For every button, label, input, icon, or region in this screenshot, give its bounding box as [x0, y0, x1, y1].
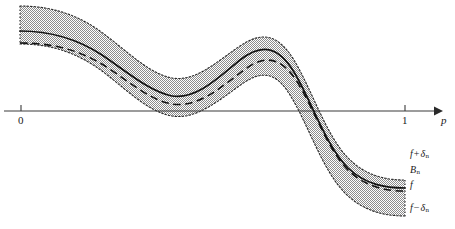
curve-label-lower-bound: f−δn: [410, 203, 429, 214]
figure-canvas: 0 1 p f+δn Bn f f−δn: [0, 0, 455, 229]
tolerance-band: [0, 0, 455, 229]
axis-tick-label-one: 1: [402, 115, 408, 126]
curve-label-bernstein: Bn: [410, 165, 420, 176]
curve-label-function: f: [410, 180, 413, 190]
curve-label-upper-bound: f+δn: [410, 149, 429, 160]
bernstein-approximation-curve: [20, 43, 405, 191]
lower-bound-subscript: n: [425, 206, 429, 214]
axis-name-label-p: p: [441, 115, 447, 126]
axis-group: [4, 105, 443, 115]
upper-bound-subscript: n: [425, 152, 429, 160]
bernstein-subscript: n: [416, 168, 420, 176]
axis-tick-label-zero: 0: [18, 115, 24, 126]
function-base: f: [410, 179, 413, 190]
tolerance-band-fill: [0, 0, 455, 229]
figure-graphic: [0, 0, 455, 229]
